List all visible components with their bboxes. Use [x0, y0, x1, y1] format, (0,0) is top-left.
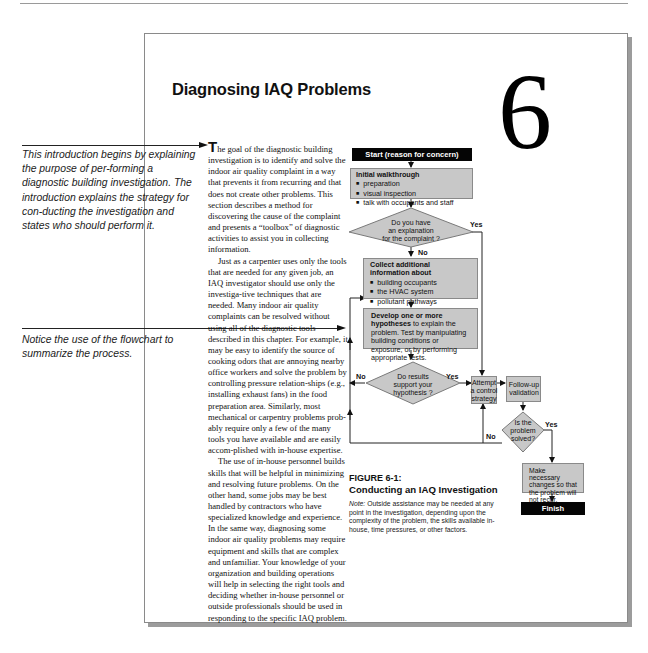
- decision1-text: Do you have an explanation for the compl…: [376, 219, 446, 243]
- decision2-yes-label: Yes: [446, 372, 458, 381]
- hypothesis-box: Develop one or more hypotheses to explai…: [363, 308, 478, 349]
- collect-item: the HVAC system: [370, 287, 471, 296]
- changes-box: Make necessary changes so that the probl…: [522, 463, 584, 493]
- decision2-no-label: No: [356, 372, 366, 381]
- walkthrough-item: visual inspection: [356, 189, 467, 198]
- drop-cap: T: [208, 138, 217, 155]
- decision1-no-label: No: [418, 248, 428, 257]
- decision1-yes-label: Yes: [470, 220, 482, 229]
- collect-item: pollutant pathways: [370, 297, 471, 306]
- paragraph-3: The use of in-house personnel builds ski…: [208, 456, 348, 623]
- decision3-no-label: No: [486, 432, 496, 441]
- header-rule: [20, 3, 628, 4]
- annotation-flowchart: Notice the use of the flowchart to summa…: [22, 333, 197, 361]
- figure-title: Conducting an IAQ Investigation: [349, 484, 499, 495]
- walkthrough-item: talk with occupants and staff: [356, 198, 467, 207]
- walkthrough-item: preparation: [356, 179, 467, 188]
- annotation-arrow-line-1: [22, 145, 200, 146]
- figure-note: Note: Outside assistance may be needed a…: [349, 500, 497, 534]
- paragraph-2: Just as a carpenter uses only the tools …: [208, 256, 348, 457]
- decision2-text: Do results support your hypothesis ?: [383, 373, 443, 397]
- page-title: Diagnosing IAQ Problems: [172, 80, 371, 99]
- paragraph-1: The goal of the diagnostic building inve…: [208, 142, 348, 256]
- body-text: The goal of the diagnostic building inve…: [208, 142, 348, 624]
- finish-box: Finish: [521, 502, 585, 515]
- decision3-yes-label: Yes: [545, 420, 557, 429]
- followup-text: Follow-up validation: [504, 381, 544, 397]
- figure-number: FIGURE 6-1:: [349, 473, 499, 483]
- walkthrough-box: Initial walkthrough preparation visual i…: [350, 168, 473, 199]
- arrow-right-icon: [199, 142, 208, 148]
- annotation-intro: This introduction begins by explaining t…: [22, 148, 197, 233]
- collect-item: building occupants: [370, 278, 471, 287]
- start-box: Start (reason for concern): [352, 148, 472, 161]
- attempt-text: Attempt a control strategy: [468, 379, 500, 403]
- decision3-text: Is the problem solved?: [506, 419, 540, 443]
- figure-caption: FIGURE 6-1: Conducting an IAQ Investigat…: [349, 473, 499, 534]
- collect-box: Collect additional information about bui…: [363, 258, 478, 299]
